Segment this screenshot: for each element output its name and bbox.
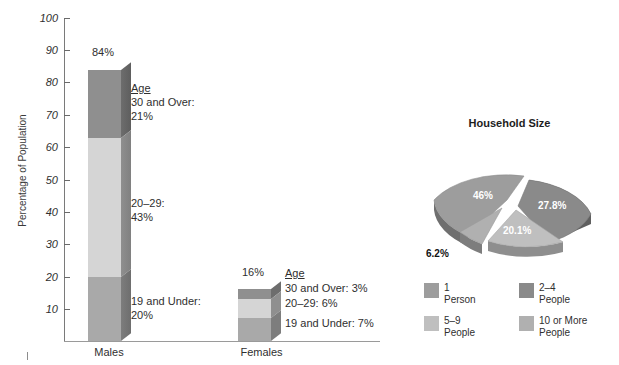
annotation-males-over-value: 21%: [131, 109, 195, 123]
y-tick-label-30: 30: [26, 238, 58, 250]
bar-males-side-under: [121, 269, 131, 341]
legend-label-2-4-people: 2–4 People: [539, 282, 570, 305]
annotation-males-under: 19 and Under: 20%: [131, 294, 201, 322]
legend-swatch-2-4-people: [519, 283, 534, 298]
legend-label-1-person: 1 Person: [444, 282, 476, 305]
annotation-males-under-label: 19 and Under:: [131, 294, 201, 308]
y-tick-label-40: 40: [26, 206, 58, 218]
annotation-females-over: 30 and Over: 3%: [285, 281, 374, 296]
legend-item-1-person[interactable]: 1 Person: [424, 282, 476, 305]
legend-swatch-5-9-people: [424, 316, 439, 331]
y-tick-mark-70: [64, 115, 70, 116]
bar-females-segment-30-and-over[interactable]: [238, 289, 271, 299]
bar-females-segment-19-and-under[interactable]: [238, 318, 271, 341]
bar-males-side-mid: [121, 130, 131, 277]
annotation-females-mid: 20–29: 6%: [285, 296, 374, 311]
bar-males-side-over: [121, 62, 131, 138]
y-tick-mark-10: [64, 309, 70, 310]
legend-item-2-4-people[interactable]: 2–4 People: [519, 282, 570, 305]
annotation-males-over-label: 30 and Over:: [131, 95, 195, 109]
y-tick-mark-50: [64, 180, 70, 181]
pie-chart-title: Household Size: [400, 117, 619, 129]
y-tick-mark-80: [64, 82, 70, 83]
annotation-females-header: Age: [285, 266, 374, 281]
annotation-males-mid-label: 20–29:: [131, 196, 165, 210]
y-tick-mark-30: [64, 244, 70, 245]
y-tick-label-50: 50: [26, 174, 58, 186]
bar-females[interactable]: [238, 0, 284, 365]
legend-label-10-or-more-people: 10 or More People: [539, 315, 587, 338]
corner-tick-mark: [27, 352, 28, 360]
legend-item-10-or-more-people[interactable]: 10 or More People: [519, 315, 587, 338]
annotation-males-mid-value: 43%: [131, 210, 165, 224]
pie-label-1-person: 46%: [473, 190, 493, 201]
annotation-females: Age 30 and Over: 3% 20–29: 6% 19 and Und…: [285, 266, 374, 331]
legend-item-5-9-people[interactable]: 5–9 People: [424, 315, 475, 338]
y-tick-mark-20: [64, 277, 70, 278]
bar-females-segment-20-29[interactable]: [238, 299, 271, 318]
y-tick-label-20: 20: [26, 271, 58, 283]
pie-label-10-or-more: 6.2%: [426, 248, 449, 259]
legend-swatch-1-person: [424, 283, 439, 298]
bar-males-segment-30-and-over[interactable]: [88, 70, 121, 138]
y-tick-mark-60: [64, 147, 70, 148]
annotation-females-under: 19 and Under: 7%: [285, 316, 374, 331]
bar-females-total-label: 16%: [242, 266, 264, 278]
y-tick-label-100: 100: [26, 12, 58, 24]
pie-label-5-9-people: 20.1%: [503, 225, 531, 236]
y-tick-mark-40: [64, 212, 70, 213]
y-tick-label-80: 80: [26, 76, 58, 88]
bar-males-total-label: 84%: [92, 46, 114, 58]
x-tick-label-females: Females: [234, 346, 289, 358]
bar-chart: Percentage of Population 100 90 80 70 60…: [0, 0, 400, 365]
annotation-males-over-header: Age: [131, 81, 195, 95]
pie-chart-graphic: [428, 138, 598, 273]
legend-swatch-10-or-more-people: [519, 316, 534, 331]
legend-label-5-9-people: 5–9 People: [444, 315, 475, 338]
annotation-males-under-value: 20%: [131, 308, 201, 322]
bar-males-segment-20-29[interactable]: [88, 138, 121, 277]
y-tick-label-90: 90: [26, 44, 58, 56]
y-tick-label-10: 10: [26, 303, 58, 315]
x-tick-label-males: Males: [84, 346, 134, 358]
figure-canvas: Percentage of Population 100 90 80 70 60…: [0, 0, 619, 365]
y-tick-label-70: 70: [26, 109, 58, 121]
y-tick-label-60: 60: [26, 141, 58, 153]
pie-label-2-4-people: 27.8%: [538, 200, 566, 211]
pie-chart: Household Size 46% 27.: [400, 0, 619, 365]
annotation-males-mid: 20–29: 43%: [131, 196, 165, 224]
y-tick-mark-90: [64, 50, 70, 51]
annotation-males-over: Age 30 and Over: 21%: [131, 81, 195, 123]
y-axis-top-cap: [64, 18, 70, 19]
bar-males-segment-19-and-under[interactable]: [88, 277, 121, 341]
